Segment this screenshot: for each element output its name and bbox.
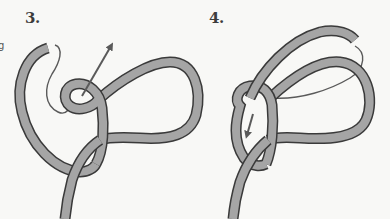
rope-right-loop [98, 62, 198, 140]
rope-right-loop [268, 62, 370, 140]
direction-arrow-down [247, 114, 253, 135]
knot-diagram [0, 0, 390, 219]
step-3-illustration [20, 45, 198, 219]
step-4-illustration [233, 31, 370, 219]
rope-standing-part [65, 140, 100, 219]
